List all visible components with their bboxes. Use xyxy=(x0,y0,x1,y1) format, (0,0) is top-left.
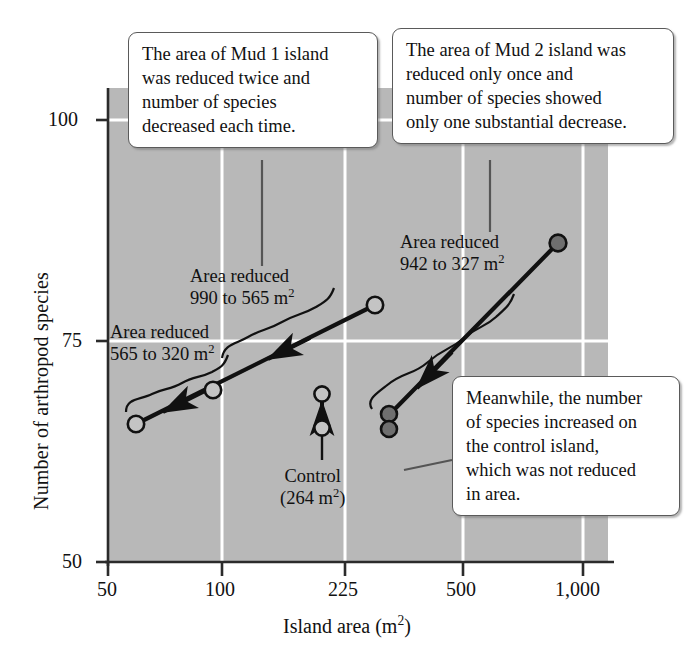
callout-control-line-5: in area. xyxy=(466,482,667,506)
x-tick-label-100: 100 xyxy=(205,578,235,601)
x-tick-label-500: 500 xyxy=(446,578,476,601)
annotation-mud1-reduction-2-line2: 990 to 565 m2 xyxy=(190,288,294,310)
annotation-mud1-reduction-2: Area reduced 990 to 565 m2 xyxy=(190,266,294,310)
annotation-mud1-reduction-1-text: 565 to 320 m xyxy=(110,344,208,364)
callout-control: Meanwhile, the number of species increas… xyxy=(452,376,680,516)
x-axis-title: Island area (m2) xyxy=(283,615,411,638)
callout-mud1: The area of Mud 1 island was reduced twi… xyxy=(128,32,378,148)
x-tick-label-50: 50 xyxy=(97,578,117,601)
annotation-mud1-reduction-1: Area reduced 565 to 320 m2 xyxy=(110,322,214,366)
y-tick-label-100: 100 xyxy=(48,108,78,131)
callout-control-line-2: of species increased on xyxy=(466,410,667,434)
annotation-mud2-reduction-1-text: 942 to 327 m xyxy=(400,254,498,274)
callout-mud2-line-4: only one substantial decrease. xyxy=(406,110,661,134)
mud1-point-565 xyxy=(205,382,221,398)
annotation-control: Control (264 m2) xyxy=(280,466,345,510)
mud1-point-320 xyxy=(128,416,144,432)
figure-root: Number of arthropod species 100 75 50 50… xyxy=(0,0,696,658)
x-tick-label-225: 225 xyxy=(328,578,358,601)
annotation-mud1-reduction-2-sup: 2 xyxy=(288,286,294,300)
mud1-point-990 xyxy=(367,297,383,313)
control-point-upper xyxy=(314,386,329,401)
callout-mud2-line-3: number of species showed xyxy=(406,86,661,110)
annotation-mud2-reduction-1: Area reduced 942 to 327 m2 xyxy=(400,232,504,276)
y-tick-label-75: 75 xyxy=(62,329,82,352)
x-tick-marks xyxy=(108,562,583,576)
callout-mud2: The area of Mud 2 island was reduced onl… xyxy=(392,28,674,144)
annotation-mud1-reduction-1-line1: Area reduced xyxy=(110,322,214,344)
y-axis-title: Number of arthropod species xyxy=(30,272,53,510)
mud2-point-327-lower xyxy=(381,421,397,437)
callout-control-line-1: Meanwhile, the number xyxy=(466,386,667,410)
annotation-mud2-reduction-1-sup: 2 xyxy=(498,252,504,266)
callout-mud2-line-2: reduced only once and xyxy=(406,62,661,86)
callout-control-line-4: which was not reduced xyxy=(466,458,667,482)
annotation-control-close: ) xyxy=(339,488,345,508)
annotation-control-text: (264 m xyxy=(280,488,333,508)
mud2-point-942 xyxy=(550,235,567,252)
annotation-mud1-reduction-2-line1: Area reduced xyxy=(190,266,294,288)
annotation-mud1-reduction-1-sup: 2 xyxy=(208,342,214,356)
annotation-mud1-reduction-2-text: 990 to 565 m xyxy=(190,288,288,308)
callout-mud1-line-2: was reduced twice and xyxy=(142,66,365,90)
x-axis-title-text: Island area (m xyxy=(283,615,397,637)
x-tick-label-1000: 1,000 xyxy=(555,578,600,601)
annotation-control-line1: Control xyxy=(280,466,345,488)
annotation-mud1-reduction-1-line2: 565 to 320 m2 xyxy=(110,344,214,366)
callout-mud1-line-3: number of species xyxy=(142,90,365,114)
annotation-mud2-reduction-1-line2: 942 to 327 m2 xyxy=(400,254,504,276)
callout-mud1-line-4: decreased each time. xyxy=(142,114,365,138)
y-tick-marks xyxy=(96,120,108,562)
callout-mud2-line-1: The area of Mud 2 island was xyxy=(406,38,661,62)
mud2-point-327-upper xyxy=(381,406,397,422)
callout-control-line-3: the control island, xyxy=(466,434,667,458)
annotation-mud2-reduction-1-line1: Area reduced xyxy=(400,232,504,254)
control-point-lower xyxy=(314,420,329,435)
y-tick-label-50: 50 xyxy=(62,550,82,573)
x-axis-title-close: ) xyxy=(404,615,411,637)
annotation-control-line2: (264 m2) xyxy=(280,488,345,510)
callout-mud1-line-1: The area of Mud 1 island xyxy=(142,42,365,66)
